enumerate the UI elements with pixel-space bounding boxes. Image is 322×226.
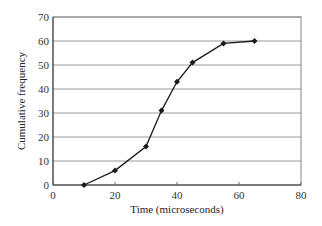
y-tick-label: 50 xyxy=(38,59,50,71)
gridlines xyxy=(53,17,301,161)
y-tick-label: 40 xyxy=(38,83,50,95)
x-tick-label: 20 xyxy=(110,189,122,201)
x-tick-label: 60 xyxy=(234,189,246,201)
y-tick-labels: 010203040506070 xyxy=(38,11,50,191)
y-tick-label: 0 xyxy=(44,179,50,191)
x-tick-label: 40 xyxy=(172,189,184,201)
x-tick-label: 80 xyxy=(296,189,308,201)
y-axis-label: Cumulative frequency xyxy=(15,51,27,150)
y-tick-label: 60 xyxy=(38,35,50,47)
y-tick-label: 70 xyxy=(38,11,50,23)
plot-frame xyxy=(53,17,301,185)
y-tick-label: 10 xyxy=(38,155,50,167)
x-tick-label: 0 xyxy=(50,189,56,201)
y-tick-label: 30 xyxy=(38,107,50,119)
y-tick-label: 20 xyxy=(38,131,50,143)
cumulative-frequency-chart: 010203040506070 020406080 Time (microsec… xyxy=(0,0,322,226)
x-axis-label: Time (microseconds) xyxy=(130,203,224,216)
data-point-marker xyxy=(81,182,87,188)
data-point-marker xyxy=(252,38,258,44)
